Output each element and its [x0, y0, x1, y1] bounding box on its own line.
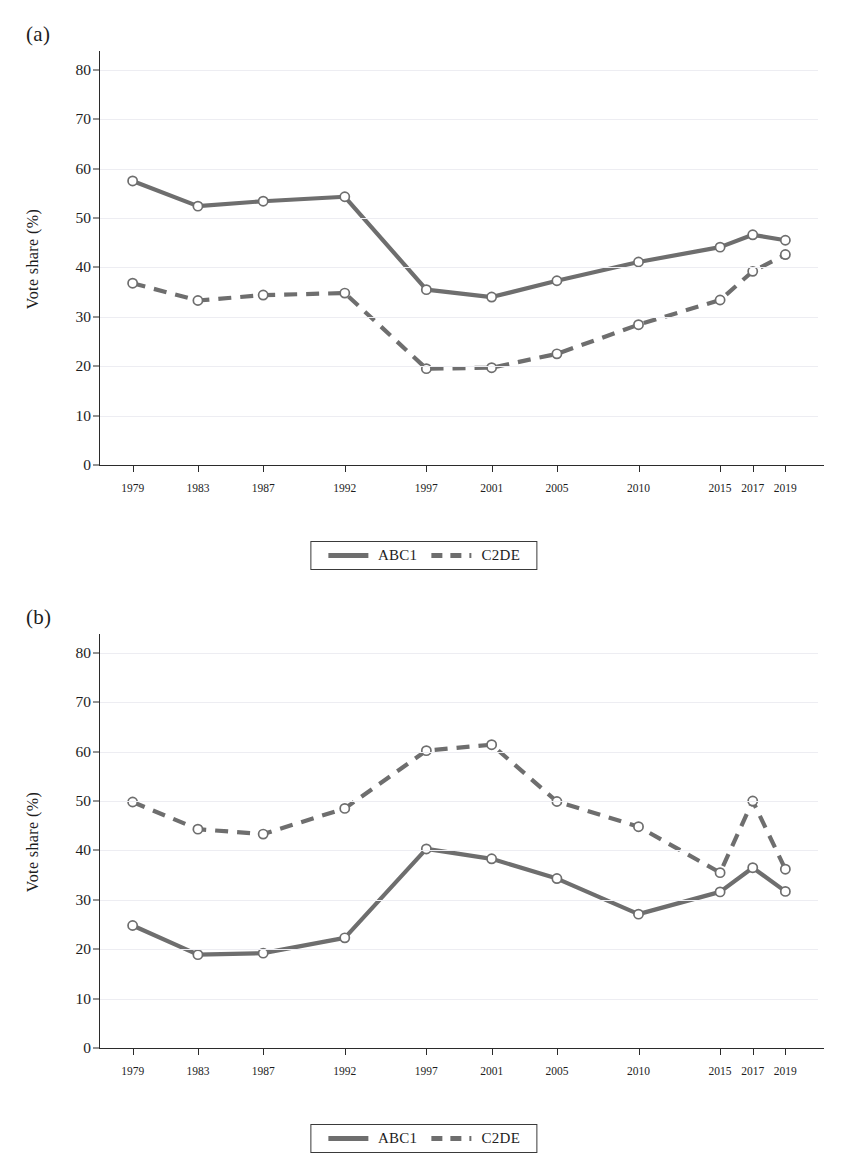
panel-a-x-tick-label-2001: 2001: [480, 482, 503, 494]
panel-a-y-tick-mark-50: [93, 218, 100, 219]
panel-b-gridline-60: [100, 752, 818, 753]
panel-a-marker-abc1-1979: [128, 176, 137, 185]
panel-b-y-tick-label-40: 40: [76, 841, 92, 859]
panel-a-y-tick-mark-0: [93, 465, 100, 466]
panel-a-legend-label-c2de: C2DE: [481, 547, 520, 564]
panel-b-x-axis-line: [99, 1048, 824, 1049]
panel-a-x-tick-label-1979: 1979: [121, 482, 144, 494]
panel-b-y-tick-label-0: 0: [83, 1039, 91, 1057]
panel-a-marker-c2de-1983: [193, 296, 202, 305]
panel-b-y-tick-label-10: 10: [76, 990, 92, 1008]
panel-b-y-tick-mark-60: [93, 751, 100, 752]
panel-a-marker-c2de-2005: [552, 349, 561, 358]
panel-a-gridline-70: [100, 119, 818, 120]
panel-a-marker-abc1-2015: [715, 243, 724, 252]
panel-b-marker-abc1-2019: [781, 887, 790, 896]
panel-a-plot-area: 0102030405060708019791983198719921997200…: [100, 55, 818, 465]
panel-b-legend-label-c2de: C2DE: [481, 1130, 520, 1147]
panel-a-gridline-60: [100, 169, 818, 170]
panel-a-x-tick-label-2010: 2010: [627, 482, 650, 494]
panel-b-y-tick-mark-80: [93, 652, 100, 653]
panel-a-x-tick-label-1983: 1983: [186, 482, 209, 494]
panel-b-marker-c2de-2010: [634, 822, 643, 831]
panel-b-marker-abc1-1979: [128, 921, 137, 930]
panel-b-marker-c2de-2001: [487, 740, 496, 749]
panel-a-legend-swatch-c2de-icon: [430, 550, 472, 561]
panel-b-x-tick-mark-2010: [639, 1048, 640, 1055]
panel-a-x-tick-mark-1992: [345, 465, 346, 472]
panel-b-marker-abc1-2010: [634, 910, 643, 919]
panel-a-marker-abc1-1992: [340, 192, 349, 201]
panel-b-marker-abc1-2017: [748, 863, 757, 872]
panel-a-x-axis-line: [99, 465, 824, 466]
panel-a: (a) Vote share (%) 010203040506070801979…: [0, 0, 847, 582]
panel-a-marker-c2de-2001: [487, 363, 496, 372]
panel-b-x-tick-mark-1979: [133, 1048, 134, 1055]
panel-a-x-tick-mark-1983: [198, 465, 199, 472]
panel-b-x-tick-label-1983: 1983: [186, 1065, 209, 1077]
panel-b-gridline-30: [100, 900, 818, 901]
panel-a-y-tick-mark-20: [93, 366, 100, 367]
panel-a-x-tick-mark-1987: [263, 465, 264, 472]
panel-a-marker-abc1-1987: [259, 197, 268, 206]
panel-a-y-tick-mark-40: [93, 267, 100, 268]
panel-b-series-layer: [100, 638, 818, 1048]
panel-a-y-tick-label-50: 50: [76, 209, 92, 227]
panel-b-gridline-20: [100, 949, 818, 950]
panel-a-x-tick-label-2019: 2019: [774, 482, 797, 494]
panel-b-marker-c2de-1987: [259, 830, 268, 839]
panel-a-y-tick-label-60: 60: [76, 160, 92, 178]
panel-b-x-tick-mark-2005: [557, 1048, 558, 1055]
panel-a-marker-c2de-2010: [634, 320, 643, 329]
panel-a-marker-abc1-2010: [634, 257, 643, 266]
panel-b-marker-c2de-1979: [128, 797, 137, 806]
panel-a-marker-c2de-1992: [340, 289, 349, 298]
panel-a-y-tick-label-30: 30: [76, 308, 92, 326]
panel-b-y-axis-title: Vote share (%): [24, 772, 42, 912]
panel-a-y-tick-label-0: 0: [83, 456, 91, 474]
panel-a-x-tick-mark-2010: [639, 465, 640, 472]
panel-a-gridline-40: [100, 267, 818, 268]
panel-a-legend-entry-c2de[interactable]: C2DE: [430, 547, 520, 564]
panel-a-marker-abc1-2005: [552, 276, 561, 285]
panel-a-y-tick-mark-30: [93, 316, 100, 317]
panel-b-y-tick-mark-70: [93, 702, 100, 703]
panel-a-x-tick-label-1997: 1997: [415, 482, 438, 494]
panel-b-x-tick-label-1979: 1979: [121, 1065, 144, 1077]
panel-b-y-tick-mark-20: [93, 949, 100, 950]
panel-a-legend-entry-abc1[interactable]: ABC1: [327, 547, 418, 564]
panel-b-marker-c2de-2019: [781, 865, 790, 874]
panel-b-legend-swatch-abc1-icon: [327, 1133, 369, 1144]
panel-b: (b) Vote share (%) 010203040506070801979…: [0, 583, 847, 1165]
panel-a-x-tick-mark-2017: [753, 465, 754, 472]
panel-b-y-tick-mark-40: [93, 850, 100, 851]
panel-b-x-tick-label-1987: 1987: [252, 1065, 275, 1077]
panel-b-x-tick-label-2019: 2019: [774, 1065, 797, 1077]
panel-b-gridline-10: [100, 999, 818, 1000]
panel-b-x-tick-label-2015: 2015: [709, 1065, 732, 1077]
panel-a-x-tick-mark-1979: [133, 465, 134, 472]
panel-a-x-tick-mark-2001: [492, 465, 493, 472]
panel-a-line-abc1: [133, 181, 786, 297]
panel-a-y-tick-label-40: 40: [76, 258, 92, 276]
panel-b-y-tick-label-70: 70: [76, 693, 92, 711]
panel-b-line-abc1: [133, 849, 786, 955]
panel-a-gridline-80: [100, 70, 818, 71]
panel-b-x-tick-label-2010: 2010: [627, 1065, 650, 1077]
panel-b-marker-c2de-1992: [340, 804, 349, 813]
panel-b-legend-entry-abc1[interactable]: ABC1: [327, 1130, 418, 1147]
panel-b-gridline-40: [100, 850, 818, 851]
panel-a-x-tick-mark-2005: [557, 465, 558, 472]
panel-a-marker-abc1-2017: [748, 230, 757, 239]
panel-b-legend: ABC1C2DE: [310, 1124, 537, 1153]
panel-a-marker-c2de-2019: [781, 250, 790, 259]
panel-b-legend-label-abc1: ABC1: [378, 1130, 418, 1147]
panel-a-gridline-10: [100, 416, 818, 417]
panel-b-x-tick-label-2005: 2005: [545, 1065, 568, 1077]
panel-b-gridline-80: [100, 653, 818, 654]
panel-b-x-tick-label-1992: 1992: [333, 1065, 356, 1077]
panel-a-gridline-30: [100, 317, 818, 318]
panel-b-legend-entry-c2de[interactable]: C2DE: [430, 1130, 520, 1147]
panel-a-y-tick-mark-60: [93, 168, 100, 169]
panel-b-y-tick-label-50: 50: [76, 792, 92, 810]
